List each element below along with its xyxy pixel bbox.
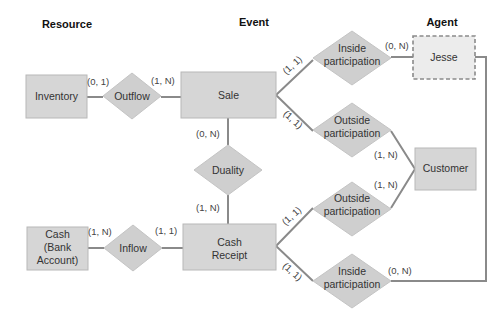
- outside-bottom-line1: Outside: [334, 192, 370, 204]
- entity-cash-label-line2: (Bank: [44, 241, 72, 253]
- card-inside-bottom-jesse: (0, N): [388, 265, 412, 276]
- entity-customer[interactable]: Customer: [415, 148, 476, 190]
- entity-cash-receipt-line1: Cash: [217, 236, 242, 248]
- relationship-inflow[interactable]: Inflow: [104, 225, 162, 271]
- card-sale-outside: (1, 1): [281, 108, 305, 131]
- relationship-duality[interactable]: Duality: [194, 145, 262, 195]
- inside-bottom-line2: participation: [324, 278, 381, 290]
- card-inside-jesse: (0, N): [385, 40, 409, 51]
- entity-customer-label: Customer: [423, 162, 469, 174]
- card-cash-inflow: (1, N): [88, 226, 112, 237]
- rea-diagram: Resource Event Agent Inventory Sale Cash…: [0, 0, 504, 313]
- entity-inventory-label: Inventory: [35, 90, 79, 102]
- relationship-outside-participation-bottom[interactable]: Outside participation: [313, 182, 391, 236]
- card-inventory-outflow: (0, 1): [87, 76, 109, 87]
- inside-top-line2: participation: [324, 55, 381, 67]
- entity-cash-bank-account[interactable]: Cash (Bank Account): [27, 227, 88, 270]
- outside-top-line2: participation: [324, 127, 381, 139]
- entity-sale-label: Sale: [218, 89, 239, 101]
- card-outflow-sale: (1, N): [151, 75, 175, 86]
- relationship-inflow-label: Inflow: [119, 242, 147, 254]
- entity-sale[interactable]: Sale: [181, 72, 276, 118]
- entity-cash-receipt[interactable]: Cash Receipt: [183, 224, 276, 270]
- relationship-outflow-label: Outflow: [114, 90, 150, 102]
- relationship-inside-participation-top[interactable]: Inside participation: [313, 31, 391, 85]
- card-cashreceipt-inside: (1, 1): [281, 260, 305, 283]
- entity-jesse[interactable]: Jesse: [413, 36, 475, 79]
- inside-top-line1: Inside: [338, 42, 366, 54]
- card-duality-cashreceipt: (1, N): [196, 202, 220, 213]
- card-sale-duality: (0, N): [196, 128, 220, 139]
- connector-outside-customer: [391, 131, 415, 208]
- card-outside-customer-top: (1, N): [374, 149, 398, 160]
- header-event: Event: [239, 16, 269, 28]
- entity-inventory[interactable]: Inventory: [26, 75, 87, 118]
- card-inflow-cashreceipt: (1, 1): [155, 225, 177, 236]
- relationship-duality-label: Duality: [212, 164, 245, 176]
- outside-bottom-line2: participation: [324, 205, 381, 217]
- entity-cash-receipt-line2: Receipt: [212, 249, 248, 261]
- inside-bottom-line1: Inside: [338, 265, 366, 277]
- header-resource: Resource: [42, 18, 92, 30]
- outside-top-line1: Outside: [334, 114, 370, 126]
- entity-cash-label-line3: Account): [37, 254, 78, 266]
- header-agent: Agent: [426, 16, 458, 28]
- relationship-inside-participation-bottom[interactable]: Inside participation: [313, 254, 391, 308]
- entity-jesse-label: Jesse: [430, 51, 458, 63]
- card-outside-customer-bottom: (1, N): [374, 179, 398, 190]
- card-cashreceipt-outside: (1, 1): [279, 204, 303, 227]
- entity-cash-label-line1: Cash: [45, 228, 70, 240]
